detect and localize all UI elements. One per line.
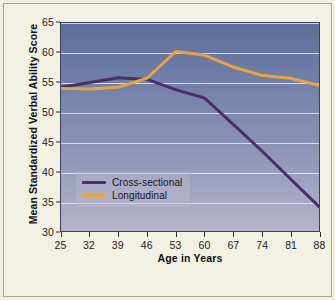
x-axis-tick-label: 53 — [161, 239, 191, 251]
x-axis-tick-label: 46 — [132, 239, 162, 251]
y-axis-tick-label: 40 — [8, 166, 54, 178]
x-axis-tick-label: 88 — [305, 239, 335, 251]
y-axis-tick-label: 55 — [8, 76, 54, 88]
y-axis-tick-label: 45 — [8, 136, 54, 148]
x-axis-tick-label: 60 — [189, 239, 219, 251]
x-axis-tick-mark — [262, 232, 263, 237]
x-axis-tick-mark — [320, 232, 321, 237]
x-axis-tick-label: 81 — [276, 239, 306, 251]
x-axis-tick-label: 67 — [218, 239, 248, 251]
chart-legend: Cross-sectionalLongitudinal — [76, 172, 190, 207]
y-axis-tick-labels: 3035404550556065 — [6, 22, 54, 232]
legend-item: Longitudinal — [82, 189, 182, 202]
x-axis-title: Age in Years — [60, 252, 320, 264]
y-axis-tick-label: 30 — [8, 226, 54, 238]
x-axis-tick-label: 39 — [103, 239, 133, 251]
x-axis-tick-mark — [118, 232, 119, 237]
legend-item-label: Cross-sectional — [112, 177, 182, 188]
y-axis-tick-label: 35 — [8, 196, 54, 208]
legend-item-label: Longitudinal — [112, 190, 167, 201]
x-axis-tick-labels: 25323946536067748188 — [60, 232, 320, 252]
plot-wrapper: Cross-sectionalLongitudinal — [60, 22, 320, 232]
x-axis-tick-label: 74 — [247, 239, 277, 251]
legend-color-swatch — [82, 194, 106, 198]
y-axis-tick-label: 65 — [8, 16, 54, 28]
x-axis-tick-mark — [61, 232, 62, 237]
x-axis-tick-mark — [233, 232, 234, 237]
legend-item: Cross-sectional — [82, 176, 182, 189]
x-axis-tick-mark — [147, 232, 148, 237]
x-axis-tick-mark — [176, 232, 177, 237]
chart-screenshot: Mean Standardized Verbal Ability Score 3… — [0, 0, 335, 300]
x-axis-tick-mark — [89, 232, 90, 237]
series-line-longitudinal — [61, 52, 319, 89]
y-axis-tick-label: 50 — [8, 106, 54, 118]
x-axis-tick-mark — [204, 232, 205, 237]
x-axis-tick-label: 25 — [46, 239, 76, 251]
x-axis-tick-mark — [291, 232, 292, 237]
legend-color-swatch — [82, 181, 106, 185]
x-axis-tick-label: 32 — [74, 239, 104, 251]
y-axis-tick-label: 60 — [8, 46, 54, 58]
